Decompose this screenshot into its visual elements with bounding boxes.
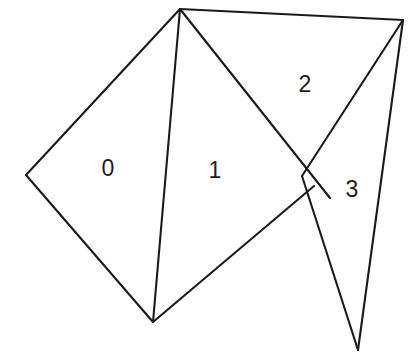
- face-label-0: 0: [102, 155, 115, 181]
- edge-apex-bottom: [153, 9, 180, 322]
- mesh-canvas: 0 1 2 3: [0, 0, 418, 361]
- edge-apex-junction: [180, 9, 330, 198]
- face-label-1: 1: [209, 157, 222, 183]
- edge-left-bottom: [26, 175, 153, 322]
- edge-apex-left: [26, 9, 180, 175]
- edge-bottom-junction: [153, 186, 314, 322]
- edge-apex-topright: [180, 9, 403, 20]
- edge-topright-spike: [358, 20, 403, 350]
- edge-topright-junction: [302, 20, 403, 176]
- edge-junction-spike: [302, 176, 358, 350]
- face-label-2: 2: [299, 71, 312, 97]
- triangle-mesh-figure: 0 1 2 3: [0, 0, 418, 361]
- face-label-3: 3: [346, 176, 359, 202]
